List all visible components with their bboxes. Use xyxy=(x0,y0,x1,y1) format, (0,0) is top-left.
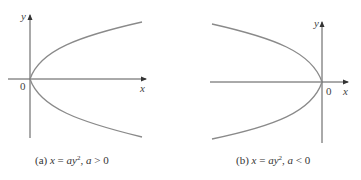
x-axis-label-b: x xyxy=(342,85,348,97)
plot-a: y x 0 xyxy=(8,10,146,138)
caption-a: (a) x = ay2, a > 0 xyxy=(35,154,109,166)
origin-label-a: 0 xyxy=(20,80,26,92)
plot-b: y 0 x xyxy=(210,17,348,143)
y-axis-label-a: y xyxy=(20,10,26,22)
caption-b: (b) x = ay2, a < 0 xyxy=(236,154,310,166)
caption-a-coef: ay xyxy=(67,154,77,166)
caption-b-coef: ay xyxy=(268,154,278,166)
x-axis-label-a: x xyxy=(139,82,145,94)
caption-a-eq: = xyxy=(55,154,67,166)
y-axis-label-b: y xyxy=(313,17,319,29)
caption-a-cond: > 0 xyxy=(91,154,108,166)
caption-b-cond: < 0 xyxy=(293,154,310,166)
figure-canvas: y x 0 y 0 x xyxy=(0,0,361,180)
caption-b-tag: (b) xyxy=(236,154,249,166)
caption-a-tag: (a) xyxy=(35,154,47,166)
origin-label-b: 0 xyxy=(326,85,332,97)
caption-b-eq: = xyxy=(256,154,268,166)
